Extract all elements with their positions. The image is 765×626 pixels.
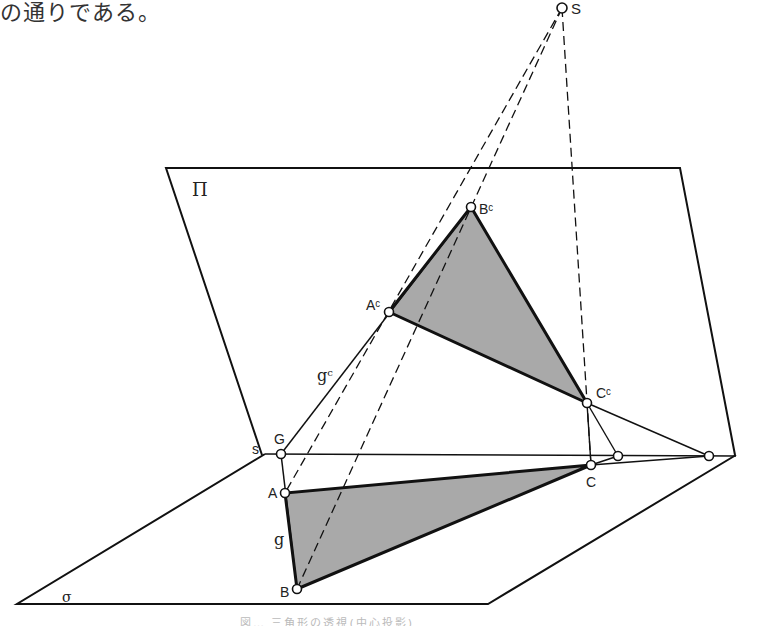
point-A: [281, 489, 290, 498]
point-Ac: [385, 308, 394, 317]
label-gc: gᶜ: [317, 366, 333, 385]
point-B: [293, 585, 302, 594]
label-pi: Π: [192, 179, 208, 200]
trace-line-s: [265, 454, 736, 456]
label-Ac: Aᶜ: [366, 297, 380, 313]
triangle-abc-image: [389, 207, 587, 403]
point-C: [587, 461, 596, 470]
label-g: g: [274, 530, 284, 549]
label-Cc: Cᶜ: [596, 385, 611, 401]
point-P2: [705, 452, 714, 461]
point-G: [277, 450, 286, 459]
label-S: S: [571, 0, 581, 17]
point-P1: [614, 452, 623, 461]
label-G: G: [274, 431, 285, 447]
label-A: A: [268, 485, 278, 501]
perspective-diagram: S Π Bᶜ Aᶜ Cᶜ gᶜ G s A C g B σ: [0, 0, 765, 626]
point-Bc: [467, 203, 476, 212]
label-Bc: Bᶜ: [479, 201, 493, 217]
label-C: C: [586, 474, 596, 490]
label-sigma: σ: [62, 589, 72, 605]
figure-caption: 図… 三角形の透視(中心投影): [240, 614, 414, 626]
label-s: s: [252, 441, 259, 457]
point-Cc: [583, 399, 592, 408]
point-S: [557, 3, 567, 13]
label-B: B: [280, 584, 289, 600]
